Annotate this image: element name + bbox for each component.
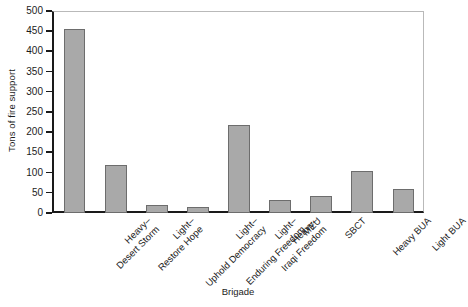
y-tick-label: 250 <box>26 105 43 118</box>
y-tick-label: 200 <box>26 125 43 138</box>
y-tick-mark <box>46 151 52 153</box>
bar <box>393 189 415 213</box>
x-axis-label: Light–Restore Hope <box>147 215 205 273</box>
y-axis-title: Tons of fire support <box>6 46 17 176</box>
bar <box>187 207 209 213</box>
y-tick-mark <box>46 71 52 73</box>
x-axis-label: SBCT <box>343 215 369 241</box>
y-tick-mark <box>46 111 52 113</box>
bar <box>146 205 168 213</box>
y-tick-mark <box>46 30 52 32</box>
y-tick-mark <box>46 131 52 133</box>
y-tick-label: 50 <box>32 186 43 199</box>
bar <box>105 165 127 213</box>
y-tick-mark <box>46 50 52 52</box>
y-tick-mark <box>46 91 52 93</box>
x-axis-title: Brigade <box>52 286 424 297</box>
y-tick-label: 450 <box>26 24 43 37</box>
bar <box>228 125 250 213</box>
y-tick-label: 300 <box>26 85 43 98</box>
bar <box>351 171 373 213</box>
y-tick-label: 100 <box>26 166 43 179</box>
bar <box>269 200 291 213</box>
x-axis-category-labels: Heavy–Desert StormLight–Restore HopeLigh… <box>54 215 424 287</box>
y-tick-label: 350 <box>26 65 43 78</box>
bar-series <box>54 11 424 213</box>
y-tick-mark <box>46 192 52 194</box>
y-tick-mark <box>46 172 52 174</box>
bar <box>64 29 86 213</box>
y-tick-label: 400 <box>26 44 43 57</box>
y-tick-mark <box>46 10 52 12</box>
y-tick-label: 0 <box>37 206 43 219</box>
x-axis-label: Heavy BUA <box>391 215 434 258</box>
y-tick-label: 500 <box>26 4 43 17</box>
bar <box>310 196 332 213</box>
y-tick-mark <box>46 212 52 214</box>
y-tick-label: 150 <box>26 145 43 158</box>
x-axis-label: Light BUA <box>430 215 468 253</box>
